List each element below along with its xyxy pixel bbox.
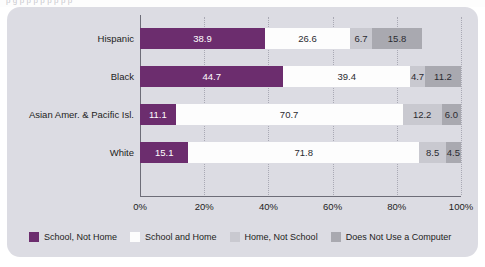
legend-item[interactable]: School, Not Home xyxy=(29,232,117,242)
bar-segment: 6.0 xyxy=(442,104,461,125)
bar-segment: 4.5 xyxy=(446,142,460,163)
bar-segment: 12.2 xyxy=(403,104,442,125)
legend-label: Home, Not School xyxy=(245,232,318,242)
x-tick-label: 60% xyxy=(323,201,342,212)
x-axis-line xyxy=(140,196,461,197)
chart-legend: School, Not HomeSchool and HomeHome, Not… xyxy=(29,232,469,242)
bar-segment: 38.9 xyxy=(140,28,265,49)
plot-area: Hispanic38.926.66.715.8Black44.739.44.71… xyxy=(140,15,461,197)
cropped-header-text: p g p p p p p p p p xyxy=(6,0,485,5)
gridline-100 xyxy=(461,17,462,195)
chart-panel: Hispanic38.926.66.715.8Black44.739.44.71… xyxy=(7,7,478,257)
cropped-header-text-sliver: p g p p p p p p p p xyxy=(0,0,485,7)
bar-row: Hispanic38.926.66.715.8 xyxy=(140,28,461,49)
legend-label: School and Home xyxy=(145,232,217,242)
category-label: Hispanic xyxy=(7,28,140,49)
legend-swatch-icon xyxy=(331,232,341,242)
bar-segment: 39.4 xyxy=(283,66,409,87)
legend-item[interactable]: Does Not Use a Computer xyxy=(331,232,452,242)
bar-segment: 70.7 xyxy=(176,104,403,125)
x-tick-label: 100% xyxy=(449,201,473,212)
x-tick-label: 0% xyxy=(133,201,147,212)
legend-swatch-icon xyxy=(29,232,39,242)
bar-segment: 6.7 xyxy=(350,28,372,49)
legend-item[interactable]: Home, Not School xyxy=(230,232,318,242)
bar-row: Black44.739.44.711.2 xyxy=(140,66,461,87)
legend-item[interactable]: School and Home xyxy=(130,232,217,242)
bar-segment: 8.5 xyxy=(419,142,446,163)
bar-segment: 15.8 xyxy=(372,28,423,49)
x-tick-label: 20% xyxy=(195,201,214,212)
bar-segment: 11.2 xyxy=(425,66,461,87)
category-label: White xyxy=(7,142,140,163)
x-tick-label: 80% xyxy=(387,201,406,212)
x-tick-label: 40% xyxy=(259,201,278,212)
category-label: Black xyxy=(7,66,140,87)
legend-label: Does Not Use a Computer xyxy=(346,232,452,242)
legend-label: School, Not Home xyxy=(44,232,117,242)
bar-segment: 26.6 xyxy=(265,28,350,49)
bar-segment: 15.1 xyxy=(140,142,188,163)
bar-segment: 44.7 xyxy=(140,66,283,87)
bar-row: Asian Amer. & Pacific Isl.11.170.712.26.… xyxy=(140,104,461,125)
bar-row: White15.171.88.54.5 xyxy=(140,142,461,163)
bar-segment: 4.7 xyxy=(410,66,425,87)
category-label: Asian Amer. & Pacific Isl. xyxy=(7,104,140,125)
bar-segment: 11.1 xyxy=(140,104,176,125)
legend-swatch-icon xyxy=(130,232,140,242)
legend-swatch-icon xyxy=(230,232,240,242)
bar-segment: 71.8 xyxy=(188,142,418,163)
